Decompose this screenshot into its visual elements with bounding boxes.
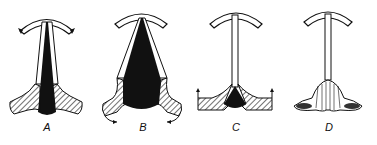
panel-d: D [282,0,377,145]
panel-a: A [0,0,95,145]
panel-b: B [95,0,190,145]
label-a: A [37,121,57,133]
label-d: D [319,121,339,133]
panel-c: C [190,0,282,145]
label-b: B [133,121,153,133]
label-c: C [226,121,246,133]
